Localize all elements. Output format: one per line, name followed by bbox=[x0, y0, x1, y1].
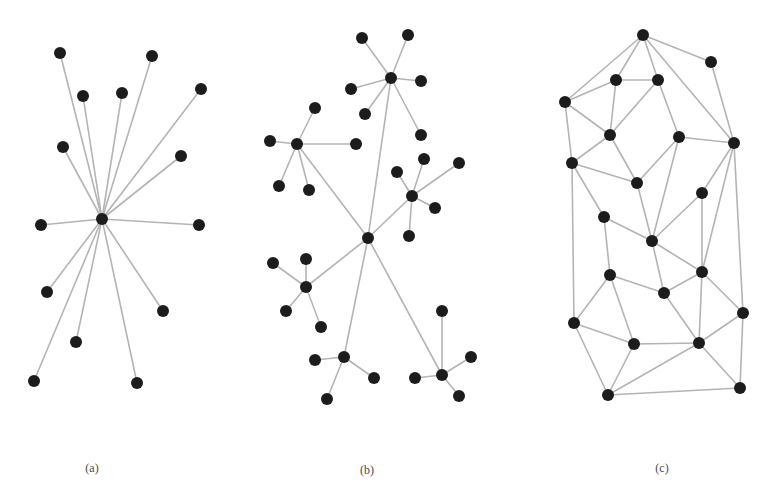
graph-node bbox=[350, 138, 362, 150]
graph-node bbox=[403, 230, 415, 242]
graph-edge bbox=[565, 102, 572, 163]
graph-edge bbox=[273, 263, 306, 287]
graph-node bbox=[273, 180, 285, 192]
graph-node bbox=[280, 305, 292, 317]
graph-edge bbox=[41, 219, 102, 225]
graph-node bbox=[436, 305, 448, 317]
graph-node bbox=[57, 141, 69, 153]
graph-node bbox=[402, 29, 414, 41]
graph-edge bbox=[102, 93, 122, 219]
panel-c-mesh-graph bbox=[559, 29, 749, 401]
graph-node bbox=[734, 382, 746, 394]
graph-node bbox=[175, 150, 187, 162]
graph-node bbox=[356, 32, 368, 44]
graph-node bbox=[693, 337, 705, 349]
panel-c-caption: (c) bbox=[655, 461, 668, 476]
graph-edge bbox=[362, 38, 391, 78]
panel-a-star-graph bbox=[28, 47, 207, 389]
graph-edge bbox=[679, 137, 734, 143]
graph-edge bbox=[572, 135, 610, 163]
graph-node bbox=[54, 47, 66, 59]
graph-node bbox=[345, 83, 357, 95]
graph-node bbox=[96, 213, 108, 225]
graph-node bbox=[696, 187, 708, 199]
graph-edge bbox=[652, 241, 664, 293]
graph-node bbox=[146, 50, 158, 62]
graph-node bbox=[291, 138, 303, 150]
graph-edge bbox=[102, 156, 181, 219]
graph-edge bbox=[699, 313, 743, 343]
graph-edge bbox=[574, 275, 610, 323]
graph-edge bbox=[391, 35, 408, 78]
graph-node bbox=[70, 336, 82, 348]
graph-edge bbox=[734, 143, 743, 313]
graph-edge bbox=[409, 196, 412, 236]
graph-node bbox=[415, 75, 427, 87]
graph-node bbox=[264, 135, 276, 147]
graph-edge bbox=[699, 343, 740, 388]
graph-node bbox=[453, 390, 465, 402]
graph-edge bbox=[702, 143, 734, 272]
graph-node bbox=[673, 131, 685, 143]
graph-node bbox=[705, 56, 717, 68]
graph-node bbox=[116, 87, 128, 99]
graph-node bbox=[658, 287, 670, 299]
graph-node bbox=[436, 369, 448, 381]
graph-node bbox=[338, 351, 350, 363]
graph-edge bbox=[643, 35, 658, 80]
graph-node bbox=[559, 96, 571, 108]
graph-node bbox=[568, 317, 580, 329]
graph-node bbox=[429, 202, 441, 214]
graph-node bbox=[267, 257, 279, 269]
graph-edge bbox=[658, 80, 679, 137]
graph-canvas bbox=[0, 0, 766, 501]
graph-node bbox=[628, 338, 640, 350]
graph-node bbox=[453, 157, 465, 169]
graph-edge bbox=[610, 80, 658, 135]
graph-node bbox=[41, 286, 53, 298]
panel-b-tree-graph bbox=[264, 29, 477, 405]
graph-edge bbox=[740, 313, 743, 388]
graph-edge bbox=[565, 35, 643, 102]
graph-node bbox=[28, 375, 40, 387]
graph-node bbox=[737, 307, 749, 319]
graph-node bbox=[359, 108, 371, 120]
graph-edge bbox=[102, 219, 199, 225]
graph-node bbox=[415, 129, 427, 141]
graph-node bbox=[631, 177, 643, 189]
graph-node bbox=[321, 393, 333, 405]
graph-edge bbox=[652, 241, 702, 272]
graph-edge bbox=[565, 80, 616, 102]
graph-node bbox=[368, 372, 380, 384]
graph-node bbox=[646, 235, 658, 247]
panel-a-caption: (a) bbox=[85, 461, 98, 476]
graph-edge bbox=[572, 163, 574, 323]
graph-edge bbox=[702, 143, 734, 193]
graph-edge bbox=[604, 217, 652, 241]
graph-node bbox=[157, 305, 169, 317]
graph-edge bbox=[652, 193, 702, 241]
graph-node bbox=[604, 129, 616, 141]
graph-edge bbox=[699, 272, 702, 343]
graph-node bbox=[598, 211, 610, 223]
graph-node bbox=[309, 354, 321, 366]
graph-edge bbox=[634, 343, 699, 344]
graph-node bbox=[696, 266, 708, 278]
graph-edge bbox=[279, 144, 297, 186]
graph-node bbox=[315, 321, 327, 333]
graph-node bbox=[465, 351, 477, 363]
graph-node bbox=[309, 102, 321, 114]
graph-node bbox=[35, 219, 47, 231]
graph-edge bbox=[368, 78, 391, 238]
graph-edge bbox=[344, 238, 368, 357]
graph-node bbox=[77, 90, 89, 102]
graph-edge bbox=[412, 163, 459, 196]
graph-edge bbox=[643, 35, 711, 62]
graph-node bbox=[193, 219, 205, 231]
graph-edge bbox=[608, 388, 740, 395]
graph-node bbox=[195, 83, 207, 95]
graph-node bbox=[610, 74, 622, 86]
graph-node bbox=[385, 72, 397, 84]
graph-node bbox=[300, 253, 312, 265]
graph-node bbox=[300, 281, 312, 293]
